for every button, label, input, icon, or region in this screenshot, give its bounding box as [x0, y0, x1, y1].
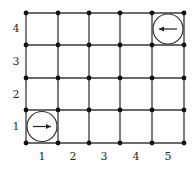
grid-node-dot	[87, 76, 92, 81]
col-label-5: 5	[165, 150, 172, 163]
grid-node-dot	[150, 43, 155, 48]
grid-node-dot	[24, 76, 29, 81]
grid-node-dot	[182, 141, 187, 146]
grid-node-dot	[182, 108, 187, 113]
grid-node-dot	[118, 141, 123, 146]
grid-node-dot	[56, 11, 61, 16]
grid-node-dot	[87, 11, 92, 16]
grid-node-dot	[182, 43, 187, 48]
row-label-3: 3	[13, 55, 20, 68]
grid-node-dot	[150, 141, 155, 146]
row-label-1: 1	[13, 120, 20, 133]
grid-node-dot	[24, 141, 29, 146]
col-label-3: 3	[101, 150, 108, 163]
grid-node-dot	[118, 76, 123, 81]
grid-node-dot	[118, 11, 123, 16]
grid-node-dot	[87, 141, 92, 146]
grid-node-dot	[150, 76, 155, 81]
row-label-4: 4	[13, 22, 20, 35]
grid-node-dot	[24, 43, 29, 48]
grid-node-dot	[24, 108, 29, 113]
grid-node-dot	[118, 43, 123, 48]
grid-node-dot	[56, 108, 61, 113]
grid-node-dot	[118, 108, 123, 113]
col-label-2: 2	[70, 150, 77, 163]
row-label-2: 2	[13, 88, 20, 101]
grid-node-dot	[87, 43, 92, 48]
grid-node-dot	[182, 11, 187, 16]
grid-node-dot	[24, 11, 29, 16]
agent-start	[27, 112, 57, 142]
grid-node-dot	[56, 76, 61, 81]
grid-diagram: 1 2 3 4 5 1 2 3 4	[0, 0, 196, 172]
grid-node-dot	[182, 76, 187, 81]
col-label-4: 4	[133, 150, 140, 163]
grid-node-dot	[87, 108, 92, 113]
grid-node-dot	[56, 141, 61, 146]
col-label-1: 1	[39, 150, 46, 163]
agent-goal	[153, 14, 183, 44]
grid-node-dot	[150, 11, 155, 16]
grid-node-dot	[150, 108, 155, 113]
grid-node-dot	[56, 43, 61, 48]
